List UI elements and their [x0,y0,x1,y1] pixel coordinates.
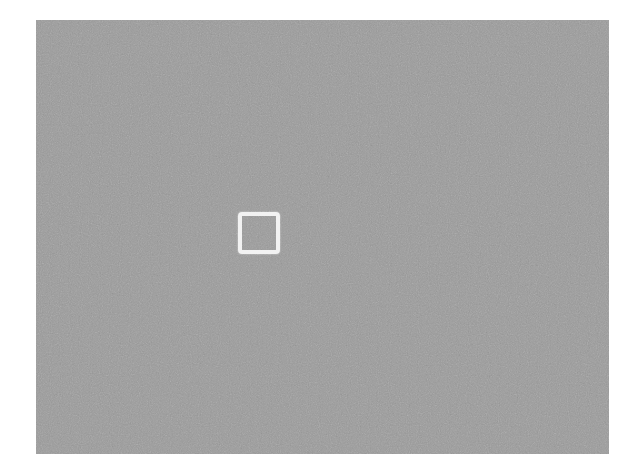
square-marker [238,212,280,254]
image-canvas [0,0,642,475]
noise-panel [36,20,609,454]
grain-texture [36,20,609,454]
